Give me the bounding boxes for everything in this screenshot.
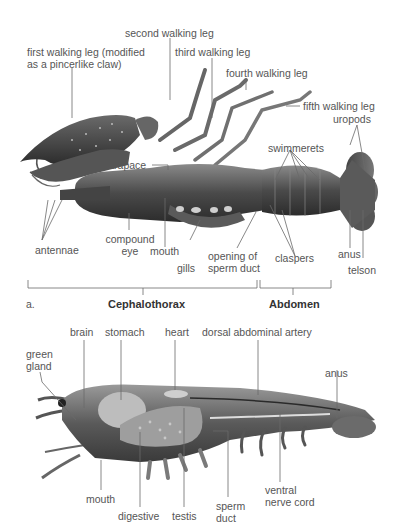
label-opening-sperm-duct-line1: opening of xyxy=(208,250,257,262)
internal-view xyxy=(36,385,376,478)
label-stomach: stomach xyxy=(105,326,145,338)
label-anus-b: anus xyxy=(325,367,348,379)
label-gills: gills xyxy=(177,262,195,274)
label-third-walking-leg: third walking leg xyxy=(175,46,250,58)
panel-label-a: a. xyxy=(26,298,35,310)
crayfish-illustration xyxy=(0,0,394,527)
label-antennae: antennae xyxy=(35,244,79,256)
label-first-walking-leg-line1: first walking leg (modified xyxy=(27,46,145,58)
label-uropods: uropods xyxy=(333,113,371,125)
label-opening-sperm-duct-line2: sperm duct xyxy=(208,262,260,274)
label-telson: telson xyxy=(348,264,376,276)
label-anus-a: anus xyxy=(338,248,361,260)
label-carapace: carapace xyxy=(103,159,146,171)
region-cephalothorax: Cephalothorax xyxy=(108,298,185,310)
label-compound-eye-line2: eye xyxy=(104,245,156,257)
region-abdomen: Abdomen xyxy=(269,298,320,310)
label-claspers: claspers xyxy=(275,252,314,264)
label-green-gland-line1: green xyxy=(26,348,53,360)
label-brain: brain xyxy=(70,326,93,338)
label-sperm-duct-line2: duct xyxy=(216,512,236,524)
label-swimmerets: swimmerets xyxy=(268,142,324,154)
label-digestive: digestive xyxy=(118,510,159,522)
label-first-walking-leg-line2: as a pincerlike claw) xyxy=(27,58,122,70)
label-second-walking-leg: second walking leg xyxy=(125,27,214,39)
label-green-gland-line2: gland xyxy=(26,360,52,372)
label-compound-eye-line1: compound xyxy=(104,233,156,245)
label-sperm-duct-line1: sperm xyxy=(216,500,245,512)
label-mouth-a: mouth xyxy=(150,245,179,257)
external-view xyxy=(20,70,378,231)
label-ventral-nerve-cord-line1: ventral xyxy=(265,484,297,496)
label-mouth-b: mouth xyxy=(86,493,115,505)
label-testis: testis xyxy=(172,510,197,522)
label-heart: heart xyxy=(165,326,189,338)
label-dorsal-abdominal-artery: dorsal abdominal artery xyxy=(202,326,312,338)
label-fifth-walking-leg: fifth walking leg xyxy=(303,100,375,112)
label-fourth-walking-leg: fourth walking leg xyxy=(226,67,308,79)
label-ventral-nerve-cord-line2: nerve cord xyxy=(265,496,315,508)
